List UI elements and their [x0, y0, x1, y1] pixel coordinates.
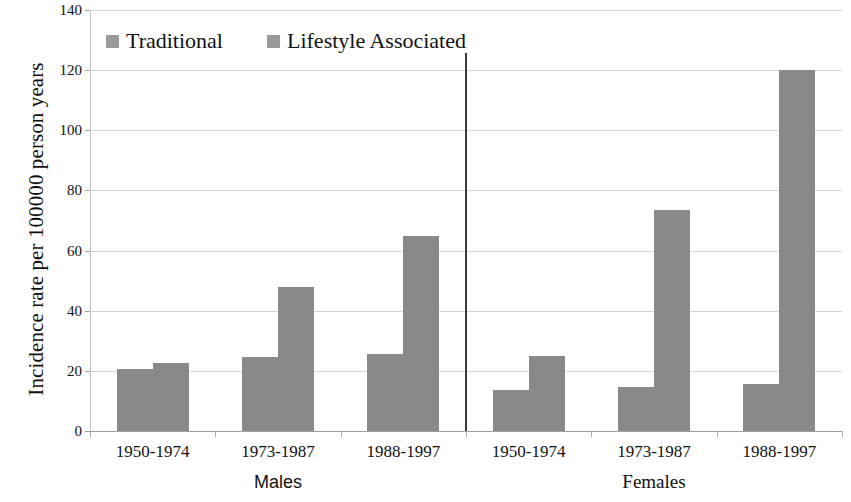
legend-swatch-icon: [106, 35, 119, 48]
group-divider: [465, 53, 467, 431]
bar-chart: Incidence rate per 100000 person years 1…: [0, 0, 851, 502]
bar: [153, 363, 189, 431]
y-axis-tick-labels: 140120100806040200: [30, 0, 82, 502]
y-axis-tick-mark: [85, 251, 90, 252]
chart-legend: Traditional Lifestyle Associated: [106, 26, 466, 56]
y-axis-tick-mark: [85, 311, 90, 312]
bar: [278, 287, 314, 431]
y-axis-tick-mark: [85, 130, 90, 131]
x-axis-tick-mark: [215, 431, 216, 437]
y-axis-tick-mark: [85, 70, 90, 71]
legend-item-traditional: Traditional: [106, 28, 223, 54]
y-axis-tick-label: 40: [36, 304, 82, 318]
bar: [242, 357, 278, 431]
x-axis-tick-mark: [591, 431, 592, 437]
y-axis-tick-label: 120: [36, 63, 82, 77]
legend-label: Lifestyle Associated: [287, 28, 466, 54]
y-axis-tick-label: 0: [36, 424, 82, 438]
y-axis-tick-label: 60: [36, 244, 82, 258]
x-axis-tick-mark: [842, 431, 843, 437]
x-axis-category-label: 1988-1997: [717, 441, 842, 463]
y-axis-tick-mark: [85, 190, 90, 191]
group-label-males: Males: [158, 470, 398, 494]
x-axis-category-label: 1988-1997: [341, 441, 466, 463]
y-axis-tick-mark: [85, 371, 90, 372]
y-axis-tick-label: 80: [36, 183, 82, 197]
x-axis-category-label: 1973-1987: [591, 441, 716, 463]
bar: [654, 210, 690, 431]
bar: [117, 369, 153, 431]
x-axis-tick-mark: [466, 431, 467, 437]
legend-item-lifestyle-associated: Lifestyle Associated: [267, 28, 466, 54]
legend-label: Traditional: [126, 28, 223, 54]
x-axis-category-label: 1973-1987: [215, 441, 340, 463]
x-axis-category-label: 1950-1974: [466, 441, 591, 463]
group-label-females: Females: [534, 470, 774, 494]
y-axis-tick-label: 20: [36, 364, 82, 378]
x-axis-tick-mark: [717, 431, 718, 437]
bar: [743, 384, 779, 431]
x-axis-tick-mark: [90, 431, 91, 437]
bar: [493, 390, 529, 431]
x-axis-tick-mark: [341, 431, 342, 437]
y-axis-tick-mark: [85, 10, 90, 11]
legend-swatch-icon: [267, 35, 280, 48]
y-axis-tick-label: 100: [36, 123, 82, 137]
bar: [529, 356, 565, 431]
y-axis-tick-label: 140: [36, 3, 82, 17]
bar: [367, 354, 403, 431]
bar: [779, 70, 815, 431]
gridline: [90, 10, 842, 11]
bar: [618, 387, 654, 431]
bar: [403, 236, 439, 431]
x-axis-category-label: 1950-1974: [90, 441, 215, 463]
